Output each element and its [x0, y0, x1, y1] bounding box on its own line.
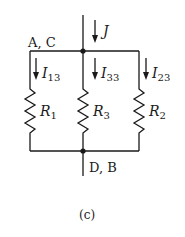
arrow-down-icon-i23 [143, 58, 149, 80]
resistor-symbol: R [39, 103, 51, 119]
circuit-diagram: A, C J I13 I33 I23 R1 R3 R2 D, B (c) [0, 0, 185, 237]
resistor-label-r1: R1 [39, 103, 57, 121]
node-label-top: A, C [27, 35, 56, 50]
resistor-r1-symbol [25, 51, 35, 151]
arrow-down-icon-j [92, 20, 98, 43]
resistor-r2-symbol [134, 51, 144, 151]
resistor-label-r2: R2 [148, 103, 166, 121]
resistor-label-r3: R3 [92, 103, 110, 121]
arrow-down-icon-i33 [92, 58, 98, 80]
junction-top-dot [80, 48, 85, 53]
current-subscript: 33 [107, 72, 120, 83]
current-label-i33: I33 [100, 65, 119, 83]
node-label-bottom: D, B [89, 160, 117, 175]
current-subscript: 23 [158, 72, 171, 83]
current-subscript: 13 [48, 72, 61, 83]
junction-bottom-dot [80, 148, 85, 153]
figure-caption: (c) [79, 208, 95, 222]
arrow-down-icon-i13 [33, 58, 39, 80]
resistor-symbol: R [148, 103, 160, 119]
current-label-i13: I13 [41, 65, 60, 83]
resistor-subscript: 2 [160, 110, 166, 121]
resistor-symbol: R [92, 103, 104, 119]
resistor-subscript: 3 [104, 110, 110, 121]
resistor-subscript: 1 [51, 110, 57, 121]
current-label-i23: I23 [151, 65, 170, 83]
source-current-label: J [100, 23, 110, 39]
resistor-r3-symbol [78, 51, 88, 151]
